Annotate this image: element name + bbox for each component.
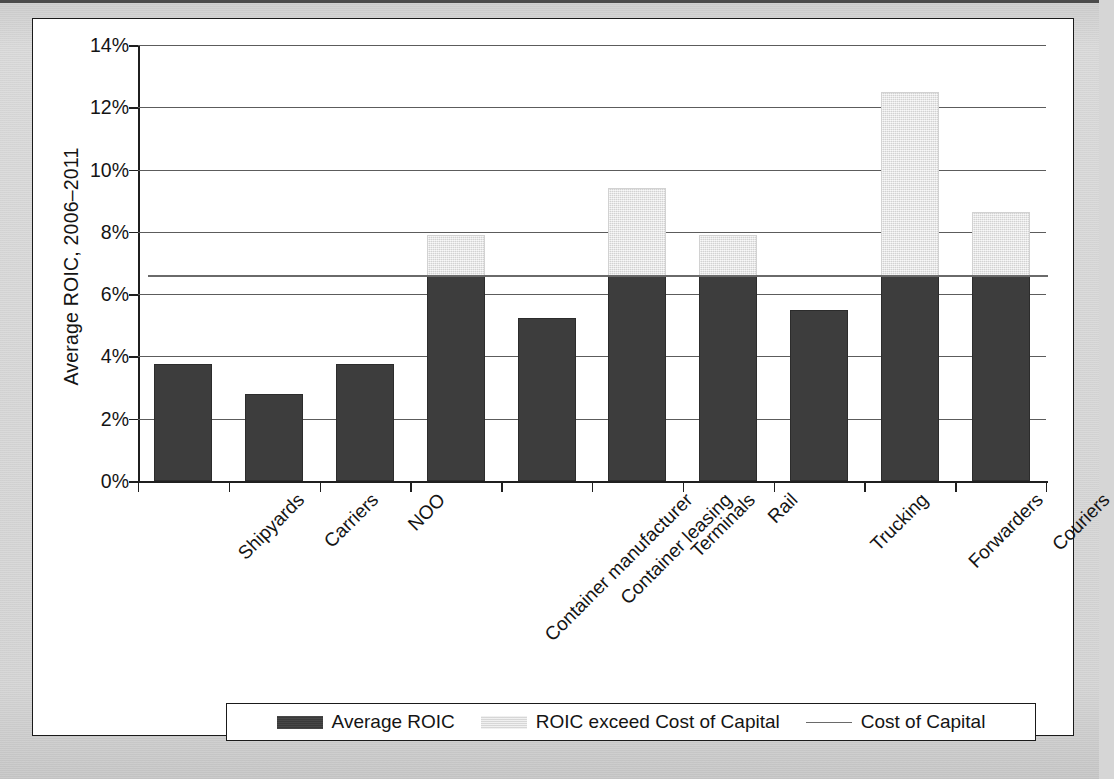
bar-segment-average-roic — [427, 275, 485, 481]
x-axis-label-forwarders: Forwarders — [964, 489, 1047, 572]
y-axis-tick-label: 10% — [90, 158, 129, 181]
bar-couriers[interactable] — [972, 45, 1030, 481]
bar-segment-roic-exceed-cost-of-capital — [608, 188, 666, 275]
y-axis-tick-label: 4% — [101, 345, 129, 368]
light-square-swatch — [481, 716, 527, 729]
bar-carriers[interactable] — [245, 45, 303, 481]
legend-item[interactable]: ROIC exceed Cost of Capital — [481, 711, 780, 733]
bar-segment-average-roic — [518, 318, 576, 482]
bar-segment-average-roic — [790, 310, 848, 481]
y-axis-tick-labels: 14%12%10%8%6%4%2%0% — [33, 45, 129, 481]
x-axis-category-labels: ShipyardsCarriersNOOContainer manufactur… — [138, 489, 1048, 699]
plot-area — [138, 45, 1046, 481]
y-axis-tick-label: 12% — [90, 96, 129, 119]
y-axis-tick — [129, 419, 138, 421]
chart-legend: Average ROICROIC exceed Cost of CapitalC… — [226, 703, 1036, 741]
x-axis-label-trucking: Trucking — [866, 489, 933, 556]
bar-noo[interactable] — [336, 45, 394, 481]
bar-segment-average-roic — [245, 394, 303, 481]
chart-figure: Average ROIC, 2006–2011 14%12%10%8%6%4%2… — [32, 18, 1074, 736]
bar-container-manufacturer[interactable] — [427, 45, 485, 481]
bar-segment-roic-exceed-cost-of-capital — [699, 235, 757, 275]
bar-segment-roic-exceed-cost-of-capital — [972, 212, 1030, 276]
bar-trucking[interactable] — [790, 45, 848, 481]
bar-segment-average-roic — [699, 275, 757, 481]
legend-item[interactable]: Average ROIC — [277, 711, 455, 733]
bar-segment-average-roic — [881, 275, 939, 481]
y-axis-tick-label: 6% — [101, 283, 129, 306]
y-axis-tick — [129, 481, 138, 483]
line-swatch — [806, 722, 852, 723]
legend-item[interactable]: Cost of Capital — [806, 711, 986, 733]
bar-segment-roic-exceed-cost-of-capital — [427, 235, 485, 275]
x-axis-label-shipyards: Shipyards — [234, 489, 309, 564]
cost-of-capital-reference-line — [148, 275, 1048, 277]
y-axis-tick — [129, 294, 138, 296]
bar-segment-average-roic — [154, 364, 212, 481]
legend-label: Cost of Capital — [861, 711, 986, 733]
bar-container-leasing[interactable] — [518, 45, 576, 481]
bar-rail[interactable] — [699, 45, 757, 481]
bar-segment-average-roic — [336, 364, 394, 481]
legend-label: Average ROIC — [332, 711, 455, 733]
y-axis-tick — [129, 232, 138, 234]
bar-shipyards[interactable] — [154, 45, 212, 481]
x-axis-label-noo: NOO — [404, 489, 450, 535]
legend-label: ROIC exceed Cost of Capital — [536, 711, 780, 733]
x-axis-label-carriers: Carriers — [320, 489, 383, 552]
bar-segment-average-roic — [972, 275, 1030, 481]
page-top-rule — [0, 0, 1099, 3]
y-axis-tick — [129, 170, 138, 172]
y-axis-tick — [129, 356, 138, 358]
bar-segment-average-roic — [608, 275, 666, 481]
y-axis-tick-label: 14% — [90, 34, 129, 57]
y-axis-tick-label: 0% — [101, 470, 129, 493]
y-axis-tick-label: 2% — [101, 407, 129, 430]
y-axis-tick — [129, 45, 138, 47]
plot-wrapper: Average ROIC, 2006–2011 14%12%10%8%6%4%2… — [33, 19, 1073, 735]
y-axis-tick — [129, 107, 138, 109]
y-axis-tick-label: 8% — [101, 220, 129, 243]
bar-forwarders[interactable] — [881, 45, 939, 481]
bar-terminals[interactable] — [608, 45, 666, 481]
x-axis-label-rail: Rail — [764, 489, 803, 528]
dark-square-swatch — [277, 716, 323, 729]
bar-segment-roic-exceed-cost-of-capital — [881, 92, 939, 276]
